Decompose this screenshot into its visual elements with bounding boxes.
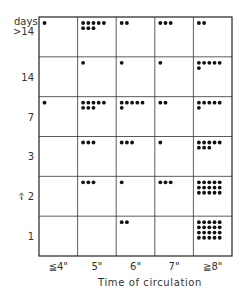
- data-dot: [92, 101, 96, 105]
- data-dot: [207, 61, 211, 65]
- data-dot: [135, 101, 139, 105]
- data-dot: [92, 106, 96, 110]
- data-dot: [81, 180, 85, 184]
- data-dot: [197, 231, 201, 235]
- dots: [43, 21, 222, 240]
- data-dot: [197, 61, 201, 65]
- data-dot: [207, 225, 211, 229]
- data-dot: [86, 180, 90, 184]
- data-dot: [158, 101, 162, 105]
- data-dot: [207, 180, 211, 184]
- data-dot: [202, 220, 206, 224]
- data-dot: [207, 141, 211, 145]
- data-dot: [218, 231, 222, 235]
- data-dot: [92, 141, 96, 145]
- y-tick-label: 3: [28, 151, 34, 162]
- data-dot: [202, 101, 206, 105]
- data-dot: [86, 141, 90, 145]
- data-dot: [218, 61, 222, 65]
- x-tick-label: 7": [169, 261, 180, 272]
- data-dot: [81, 101, 85, 105]
- data-dot: [202, 180, 206, 184]
- data-dot: [218, 220, 222, 224]
- data-dot: [81, 106, 85, 110]
- data-dot: [202, 61, 206, 65]
- data-dot: [213, 180, 217, 184]
- data-dot: [130, 141, 134, 145]
- x-tick-label: ≧8": [203, 261, 222, 272]
- data-dot: [197, 141, 201, 145]
- data-dot: [213, 231, 217, 235]
- data-dot: [197, 146, 201, 150]
- grid: [39, 17, 232, 256]
- data-dot: [213, 225, 217, 229]
- data-dot: [120, 180, 124, 184]
- data-dot: [125, 141, 129, 145]
- data-dot: [197, 225, 201, 229]
- data-dot: [202, 141, 206, 145]
- data-dot: [202, 21, 206, 25]
- data-dot: [120, 21, 124, 25]
- data-dot: [207, 220, 211, 224]
- data-dot: [86, 101, 90, 105]
- data-dot: [125, 101, 129, 105]
- data-dot: [213, 101, 217, 105]
- data-dot: [130, 101, 134, 105]
- data-dot: [81, 21, 85, 25]
- data-dot: [81, 141, 85, 145]
- x-tick-labels: ≦4"5"6"7"≧8": [49, 261, 223, 272]
- data-dot: [207, 186, 211, 190]
- x-tick-label: ≦4": [49, 261, 68, 272]
- y-tick-label: 7: [28, 112, 34, 123]
- data-dot: [218, 101, 222, 105]
- data-dot: [92, 180, 96, 184]
- data-dot: [213, 61, 217, 65]
- data-dot: [197, 180, 201, 184]
- data-dot: [164, 180, 168, 184]
- y-tick-label: 14: [21, 72, 34, 83]
- data-dot: [213, 141, 217, 145]
- data-dot: [213, 236, 217, 240]
- y-tick-labels: >141473☦ 21: [13, 26, 34, 242]
- y-tick-label: 1: [28, 231, 34, 242]
- data-dot: [158, 141, 162, 145]
- dot-matrix-chart: days >141473☦ 21 ≦4"5"6"7"≧8" Time of ci…: [0, 0, 246, 296]
- data-dot: [120, 106, 124, 110]
- data-dot: [81, 26, 85, 30]
- data-dot: [158, 180, 162, 184]
- data-dot: [169, 180, 173, 184]
- data-dot: [207, 191, 211, 195]
- data-dot: [197, 21, 201, 25]
- data-dot: [213, 220, 217, 224]
- data-dot: [202, 231, 206, 235]
- data-dot: [213, 186, 217, 190]
- data-dot: [164, 21, 168, 25]
- data-dot: [120, 141, 124, 145]
- data-dot: [97, 101, 101, 105]
- data-dot: [125, 220, 129, 224]
- data-dot: [120, 101, 124, 105]
- data-dot: [120, 61, 124, 65]
- data-dot: [202, 186, 206, 190]
- data-dot: [213, 191, 217, 195]
- data-dot: [197, 236, 201, 240]
- data-dot: [43, 101, 47, 105]
- y-tick-label: ☦ 2: [18, 191, 34, 202]
- data-dot: [218, 225, 222, 229]
- data-dot: [197, 186, 201, 190]
- data-dot: [218, 191, 222, 195]
- data-dot: [141, 101, 145, 105]
- data-dot: [202, 225, 206, 229]
- data-dot: [207, 236, 211, 240]
- data-dot: [197, 101, 201, 105]
- y-tick-label: >14: [13, 26, 34, 37]
- data-dot: [169, 21, 173, 25]
- data-dot: [120, 220, 124, 224]
- data-dot: [164, 101, 168, 105]
- data-dot: [43, 21, 47, 25]
- data-dot: [92, 21, 96, 25]
- data-dot: [197, 220, 201, 224]
- data-dot: [81, 61, 85, 65]
- data-dot: [207, 146, 211, 150]
- x-tick-label: 6": [130, 261, 141, 272]
